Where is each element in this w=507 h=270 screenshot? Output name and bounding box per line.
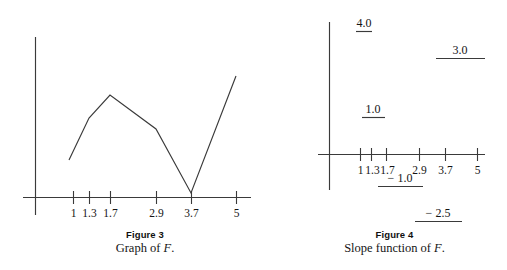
figure-4-plot: 4.0 3.0 1.0 − 1.0 − 2.5 1 1.3 1.7 2.9 3.… (290, 0, 507, 228)
figure-4-caption-italic: F (434, 241, 442, 255)
figure-3-caption-prefix: Graph of (116, 241, 164, 255)
figure-3-caption-title: Figure 3 (0, 228, 290, 241)
figure-3-caption-text: Graph of F. (0, 241, 290, 256)
figure-4-tick-label-1-7: 1.7 (380, 164, 395, 176)
figure-3-tick-label-1-3: 1.3 (82, 207, 97, 219)
figure-4-tick-label-2-9: 2.9 (412, 164, 427, 176)
figure-4-tick-label-1: 1 (358, 164, 364, 176)
figure-3-tick-label-2-9: 2.9 (149, 207, 164, 219)
figure-4-value-label-4-0: 4.0 (357, 16, 372, 30)
figure-4-caption-suffix: . (442, 241, 445, 255)
figure-4-value-label-1-0: 1.0 (366, 102, 381, 116)
figure-4-tick-label-3-7: 3.7 (438, 164, 453, 176)
figure-3-tick-label-1-7: 1.7 (103, 207, 118, 219)
figure-3-caption-suffix: . (171, 241, 174, 255)
figure-4-tick-label-5: 5 (475, 164, 481, 176)
figure-4-panel: 4.0 3.0 1.0 − 1.0 − 2.5 1 1.3 1.7 2.9 3.… (290, 0, 507, 270)
figure-3-plot: 1 1.3 1.7 2.9 3.7 5 (0, 0, 290, 228)
figure-4-tick-label-1-3: 1.3 (365, 164, 380, 176)
figure-3-curve (69, 76, 236, 193)
figure-3-caption: Figure 3 Graph of F. (0, 228, 290, 256)
figure-4-value-label-neg-2-5: − 2.5 (426, 206, 451, 220)
figure-3-panel: 1 1.3 1.7 2.9 3.7 5 Figure 3 Graph of F. (0, 0, 290, 270)
figure-4-step-segments (356, 32, 485, 222)
figure-3-tick-label-5: 5 (234, 207, 240, 219)
figure-4-value-label-3-0: 3.0 (453, 43, 468, 57)
figure-4-caption: Figure 4 Slope function of F. (286, 228, 503, 256)
figure-4-caption-text: Slope function of F. (286, 241, 503, 256)
figure-3-tick-label-1: 1 (71, 207, 77, 219)
figure-4-caption-prefix: Slope function of (344, 241, 434, 255)
figure-3-tick-label-3-7: 3.7 (184, 207, 199, 219)
figure-4-caption-title: Figure 4 (286, 228, 503, 241)
